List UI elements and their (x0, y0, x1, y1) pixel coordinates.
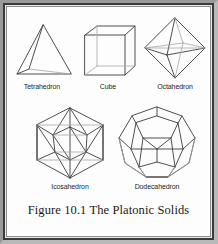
solid-label: Dodecahedron (113, 182, 201, 191)
solid-icosahedron: Icosahedron (29, 105, 111, 191)
figure-page: Tetrahedron Cube (0, 0, 218, 244)
figure-canvas: Tetrahedron Cube (7, 7, 210, 236)
cube-wireframe (77, 21, 139, 81)
solid-label: Tetrahedron (9, 82, 75, 91)
solid-cube: Cube (77, 21, 139, 91)
solid-label: Cube (77, 82, 139, 91)
tetrahedron-wireframe (9, 21, 75, 81)
solid-octahedron: Octahedron (141, 15, 209, 91)
solid-label: Octahedron (141, 82, 209, 91)
octahedron-wireframe (141, 15, 209, 81)
solid-tetrahedron: Tetrahedron (9, 21, 75, 91)
icosahedron-wireframe (29, 105, 111, 181)
solid-dodecahedron: Dodecahedron (113, 105, 201, 191)
figure-caption: Figure 10.1 The Platonic Solids (7, 203, 210, 218)
solid-label: Icosahedron (29, 182, 111, 191)
dodecahedron-wireframe (113, 105, 201, 181)
